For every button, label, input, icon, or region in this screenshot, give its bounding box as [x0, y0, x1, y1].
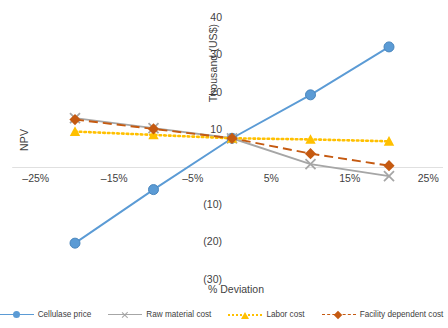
legend-item-3[interactable]: Facility dependent cost: [322, 309, 444, 320]
chart-legend: Cellulase priceRaw material costLabor co…: [0, 303, 443, 325]
data-point: [384, 42, 394, 52]
legend-swatch: [0, 309, 34, 320]
legend-item-0[interactable]: Cellulase price: [0, 309, 91, 320]
data-point: [70, 238, 80, 248]
data-point: [383, 160, 394, 171]
legend-swatch: [322, 309, 356, 320]
plot-area: [0, 0, 443, 300]
legend-item-1[interactable]: Raw material cost: [108, 309, 211, 320]
legend-label: Facility dependent cost: [360, 310, 444, 319]
legend-marker-x-icon: [121, 311, 129, 319]
legend-swatch: [228, 309, 262, 320]
legend-marker-circle-icon: [13, 311, 20, 318]
legend-label: Raw material cost: [146, 310, 211, 319]
data-point: [149, 185, 159, 195]
legend-swatch: [108, 309, 142, 320]
legend-item-2[interactable]: Labor cost: [228, 309, 304, 320]
legend-marker-triangle-icon: [241, 312, 249, 319]
data-point: [69, 114, 80, 125]
data-point: [306, 90, 316, 100]
legend-label: Cellulase price: [38, 310, 92, 319]
legend-marker-diamond-icon: [333, 310, 341, 318]
series-line-0: [75, 47, 389, 243]
legend-label: Labor cost: [266, 310, 304, 319]
data-point: [305, 148, 316, 159]
